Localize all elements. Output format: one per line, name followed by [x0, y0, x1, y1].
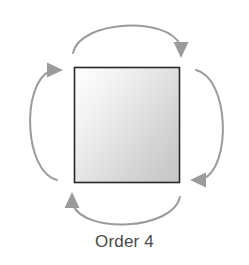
- arrow-right-arc: [196, 70, 223, 179]
- rotational-symmetry-diagram: Order 4: [0, 0, 249, 265]
- arrow-bottom: [65, 192, 181, 224]
- arrow-bottom-arc: [73, 197, 180, 224]
- arrow-bottom-head-icon: [65, 192, 80, 208]
- arrow-left-head-icon: [47, 63, 63, 78]
- square-fill: [75, 68, 180, 183]
- arrow-left: [30, 63, 63, 181]
- arrow-top-head-icon: [174, 42, 189, 58]
- arrow-top-arc: [73, 26, 180, 53]
- arrow-right-head-icon: [190, 173, 206, 188]
- arrow-left-arc: [30, 71, 57, 180]
- square-shape: [75, 68, 180, 183]
- arrow-top: [73, 26, 189, 58]
- arrow-right: [190, 70, 223, 188]
- caption-label: Order 4: [0, 233, 249, 252]
- rotation-diagram-svg: [0, 0, 249, 265]
